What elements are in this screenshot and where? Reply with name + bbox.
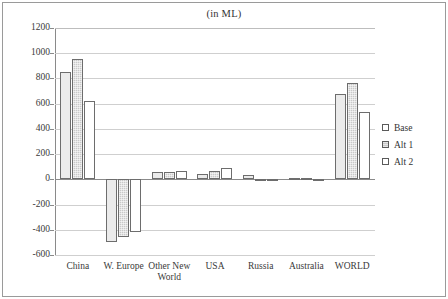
y-tick-mark-800 xyxy=(50,78,54,79)
bar-w-europe-alt-2[interactable] xyxy=(130,179,141,232)
bar-group xyxy=(329,28,375,255)
y-tick-mark--200 xyxy=(50,205,54,206)
bar-w-europe-base[interactable] xyxy=(106,179,117,242)
bar-group xyxy=(238,28,284,255)
bar-russia-alt-1[interactable] xyxy=(255,179,266,181)
bar-group xyxy=(146,28,192,255)
y-tick-label-800: 800 xyxy=(6,73,50,83)
legend-item-alt-1[interactable]: Alt 1 xyxy=(382,137,444,152)
y-tick-mark-1000 xyxy=(50,53,54,54)
bar-usa-alt-1[interactable] xyxy=(209,171,220,179)
y-tick-label--400: -400 xyxy=(6,225,50,235)
bar-australia-base[interactable] xyxy=(289,178,300,180)
y-tick-label-1000: 1000 xyxy=(6,48,50,58)
chart-title: (in ML) xyxy=(0,8,448,19)
bar-other-new-world-alt-1[interactable] xyxy=(164,172,175,180)
bar-world-alt-1[interactable] xyxy=(347,83,358,179)
bar-world-alt-2[interactable] xyxy=(359,112,370,179)
bar-usa-alt-2[interactable] xyxy=(221,168,232,179)
legend-swatch-base-icon xyxy=(382,124,389,131)
bar-australia-alt-2[interactable] xyxy=(313,179,324,181)
bar-group xyxy=(192,28,238,255)
y-tick-mark-400 xyxy=(50,129,54,130)
bar-usa-base[interactable] xyxy=(197,174,208,179)
legend-swatch-alt2-icon xyxy=(382,158,389,165)
plot-area xyxy=(55,28,375,255)
y-tick-mark--400 xyxy=(50,230,54,231)
gridline--600 xyxy=(55,255,375,256)
y-tick-mark-0 xyxy=(50,179,54,180)
y-tick-label--200: -200 xyxy=(6,200,50,210)
legend-item-base[interactable]: Base xyxy=(382,120,444,135)
y-tick-label-1200: 1200 xyxy=(6,23,50,33)
bar-china-alt-2[interactable] xyxy=(84,101,95,180)
y-tick-label-200: 200 xyxy=(6,149,50,159)
legend-label: Alt 2 xyxy=(394,157,413,167)
y-tick-mark--600 xyxy=(50,255,54,256)
y-axis-labels: 120010008006004002000-200-400-600 xyxy=(0,28,50,255)
y-tick-label--600: -600 xyxy=(6,250,50,260)
y-tick-label-400: 400 xyxy=(6,124,50,134)
legend-label: Base xyxy=(394,123,412,133)
bar-china-base[interactable] xyxy=(60,72,71,179)
y-tick-mark-600 xyxy=(50,104,54,105)
y-tick-mark-200 xyxy=(50,154,54,155)
chart-container: (in ML) 120010008006004002000-200-400-60… xyxy=(0,0,448,299)
bar-world-base[interactable] xyxy=(335,94,346,179)
bar-australia-alt-1[interactable] xyxy=(301,178,312,180)
legend-swatch-alt1-icon xyxy=(382,141,389,148)
bar-china-alt-1[interactable] xyxy=(72,59,83,179)
chart-legend: BaseAlt 1Alt 2 xyxy=(382,120,444,171)
bar-other-new-world-alt-2[interactable] xyxy=(176,171,187,179)
legend-label: Alt 1 xyxy=(394,140,413,150)
bar-other-new-world-base[interactable] xyxy=(152,172,163,180)
y-tick-mark-1200 xyxy=(50,28,54,29)
bar-group xyxy=(55,28,101,255)
bar-russia-base[interactable] xyxy=(243,175,254,179)
y-tick-label-600: 600 xyxy=(6,99,50,109)
x-tick-label-world: WORLD xyxy=(323,261,381,272)
bar-russia-alt-2[interactable] xyxy=(267,179,278,181)
bar-group xyxy=(101,28,147,255)
bar-group xyxy=(284,28,330,255)
y-tick-label-0: 0 xyxy=(6,174,50,184)
legend-item-alt-2[interactable]: Alt 2 xyxy=(382,154,444,169)
bar-w-europe-alt-1[interactable] xyxy=(118,179,129,236)
